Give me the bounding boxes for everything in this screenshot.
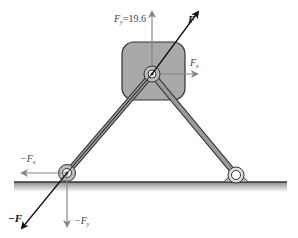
f-label: F	[188, 14, 195, 24]
minus-fy-label: −Fy	[74, 216, 90, 229]
f-arrow-shaft-lower	[67, 74, 152, 173]
minus-f-arrow	[22, 173, 67, 228]
fx-label: Fx	[190, 58, 199, 71]
minus-f-label: −F	[8, 213, 22, 223]
minus-fx-label: −Fx	[20, 154, 36, 167]
right-pin	[228, 167, 244, 183]
right-bar	[152, 74, 236, 175]
fy-label: Fy=19.6	[114, 14, 146, 27]
diagram-canvas	[0, 0, 298, 238]
force-diagram: Fy=19.6 F Fx −Fx −F −Fy	[0, 0, 298, 238]
